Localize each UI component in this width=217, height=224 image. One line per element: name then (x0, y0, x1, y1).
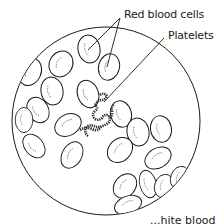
red-blood-cell (15, 107, 33, 132)
label-cut-off-bottom: ...hite blood cells (150, 216, 217, 224)
cut-off-text: ...hite blood cells (150, 216, 217, 224)
label-platelets: Platelets (168, 29, 214, 42)
label-red-blood-cells: Red blood cells (124, 8, 204, 21)
